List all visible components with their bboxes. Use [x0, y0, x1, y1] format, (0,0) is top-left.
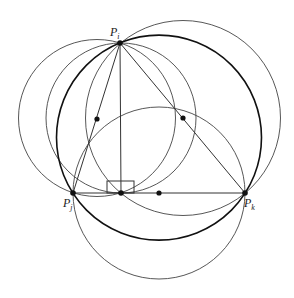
label-pk: Pk [243, 196, 255, 212]
point-pi [117, 40, 123, 46]
point-pj [70, 190, 76, 196]
center-bottom [156, 190, 161, 195]
geometry-diagram: Pi Pj Pk [0, 0, 294, 298]
point-foot [118, 190, 124, 196]
center-right [180, 115, 185, 120]
center-left [94, 116, 99, 121]
label-pj: Pj [62, 196, 73, 212]
label-pi: Pi [109, 25, 120, 41]
altitude [120, 43, 121, 193]
point-pk [242, 190, 248, 196]
